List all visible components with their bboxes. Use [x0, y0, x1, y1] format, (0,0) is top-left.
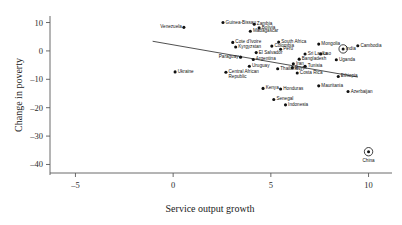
- x-tick-label: 10: [364, 180, 373, 190]
- data-point-label: Argentina: [256, 56, 276, 61]
- data-point-label: China: [349, 158, 389, 163]
- data-point[interactable]: [174, 70, 177, 73]
- data-point-label: Madagascar: [253, 28, 278, 33]
- data-point-label: Mongolia: [321, 41, 340, 46]
- data-point[interactable]: [337, 75, 340, 78]
- data-point-label: India: [346, 46, 356, 51]
- data-point-label: Mauritania: [321, 83, 343, 88]
- data-point[interactable]: [346, 90, 349, 93]
- data-point-label: Kenya: [266, 85, 279, 90]
- data-point-label: Central African Republic: [229, 69, 263, 79]
- data-point[interactable]: [248, 65, 251, 68]
- y-tick-label: –40: [29, 159, 43, 169]
- y-tick-label: –30: [29, 131, 43, 141]
- data-point[interactable]: [367, 150, 370, 153]
- x-tick-label: 0: [171, 180, 175, 190]
- data-point-label: Guinea-Bissau: [226, 20, 256, 25]
- data-point[interactable]: [342, 47, 345, 50]
- data-point-label: Bangladesh: [302, 56, 326, 61]
- data-point[interactable]: [221, 21, 224, 24]
- x-tick-label: 5: [269, 180, 273, 190]
- data-point-label: Ukraine: [178, 69, 194, 74]
- data-point[interactable]: [224, 71, 227, 74]
- data-point-label: Costa Rica: [300, 70, 323, 75]
- data-point-label: Indonesia: [288, 102, 308, 107]
- data-point[interactable]: [182, 26, 185, 29]
- data-point[interactable]: [284, 103, 287, 106]
- data-point[interactable]: [252, 58, 255, 61]
- y-tick-label: 10: [35, 18, 44, 28]
- data-point[interactable]: [231, 41, 234, 44]
- y-tick-label: –10: [29, 74, 43, 84]
- data-point[interactable]: [234, 45, 237, 48]
- x-tick-label: –5: [70, 180, 80, 190]
- data-point[interactable]: [276, 67, 279, 70]
- data-point[interactable]: [356, 44, 359, 47]
- data-point-label: Cambodia: [360, 43, 381, 48]
- data-point[interactable]: [317, 84, 320, 87]
- y-axis-title: Change in poverty: [13, 58, 24, 132]
- scatter-plot-figure: –50510100–10–20–30–40 Service output gro…: [0, 0, 402, 225]
- data-point[interactable]: [239, 56, 242, 59]
- data-point-label: Uruguay: [252, 63, 270, 68]
- data-point[interactable]: [249, 30, 252, 33]
- y-tick-label: 0: [39, 46, 43, 56]
- data-point[interactable]: [279, 87, 282, 90]
- data-point[interactable]: [261, 87, 264, 90]
- data-point-label: Tunisia: [308, 63, 323, 68]
- data-point[interactable]: [255, 51, 258, 54]
- data-point[interactable]: [272, 98, 275, 101]
- plot-canvas: –50510100–10–20–30–40 Service output gro…: [0, 0, 402, 225]
- data-point-label: Paraguay: [195, 54, 239, 59]
- data-point[interactable]: [335, 58, 338, 61]
- x-axis-title: Service output growth: [166, 203, 255, 214]
- y-tick-label: –20: [29, 103, 43, 113]
- data-point[interactable]: [270, 45, 273, 48]
- data-point-label: Honduras: [283, 86, 303, 91]
- data-point-label: Venezuela: [138, 24, 182, 29]
- data-point-label: Kyrgyzstan: [238, 44, 261, 49]
- data-point-label: Azerbaijan: [351, 89, 373, 94]
- data-point-label: Peru: [283, 46, 293, 51]
- data-point[interactable]: [317, 43, 320, 46]
- data-point[interactable]: [296, 72, 299, 75]
- data-point-label: Uganda: [339, 57, 355, 62]
- data-point-label: Ethiopia: [341, 73, 358, 78]
- data-point[interactable]: [303, 52, 306, 55]
- data-point-label: Lao: [323, 51, 331, 56]
- data-point-label: El Salvador: [259, 50, 283, 55]
